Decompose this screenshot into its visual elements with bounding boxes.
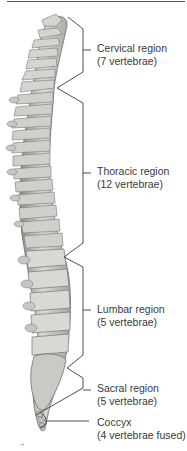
- label-sacral-count: (5 vertebrae): [97, 395, 159, 408]
- label-cervical-count: (7 vertebrae): [97, 55, 167, 68]
- label-thoracic: Thoracic region (12 vertebrae): [97, 165, 169, 191]
- label-coccyx: Coccyx (4 vertebrae fused): [97, 416, 186, 442]
- label-sacral: Sacral region (5 vertebrae): [97, 382, 159, 408]
- label-lumbar-name: Lumbar region: [97, 303, 165, 316]
- label-coccyx-name: Coccyx: [97, 416, 186, 429]
- label-cervical: Cervical region (7 vertebrae): [97, 42, 167, 68]
- label-lumbar: Lumbar region (5 vertebrae): [97, 303, 165, 329]
- stray-mark: [21, 444, 24, 445]
- bracket-thoracic: [57, 88, 83, 257]
- label-thoracic-name: Thoracic region: [97, 165, 169, 178]
- vertebral-column: [6, 14, 71, 431]
- label-cervical-name: Cervical region: [97, 42, 167, 55]
- label-thoracic-count: (12 vertebrae): [97, 178, 169, 191]
- label-coccyx-count: (4 vertebrae fused): [97, 429, 186, 442]
- label-sacral-name: Sacral region: [97, 382, 159, 395]
- label-lumbar-count: (5 vertebrae): [97, 316, 165, 329]
